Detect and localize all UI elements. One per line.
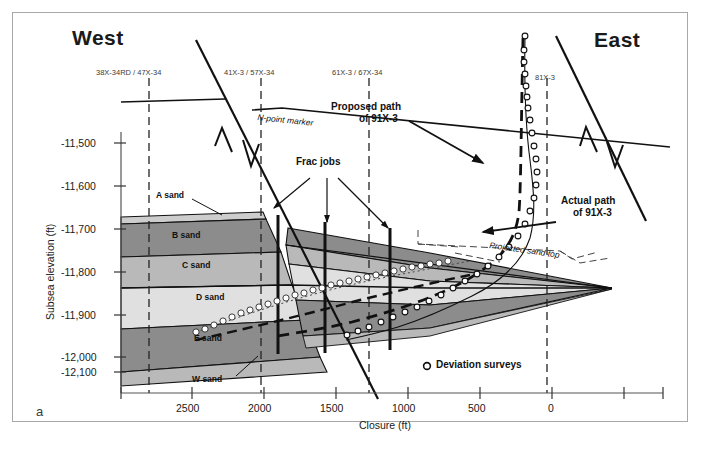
x-axis-title: Closure (ft): [359, 419, 411, 431]
sand-label-e: E sand: [194, 333, 222, 343]
y-tick-label-0: -11,500: [61, 137, 96, 149]
orientation-label-east: East: [594, 28, 640, 52]
well-label-81x-3: 81X-3: [535, 73, 555, 82]
sand-label-a: A sand: [156, 190, 184, 200]
orientation-label-west: West: [72, 26, 124, 50]
annotation-actual-path-line1: Actual path: [561, 195, 615, 207]
leader-frac-3: [338, 178, 388, 228]
well-label-61x-3: 61X-3 / 67X-34: [332, 68, 382, 77]
y-tick-label-5: -12,000: [61, 351, 97, 363]
legend-deviation-survey-icon: [424, 363, 431, 370]
sand-label-b: B sand: [172, 230, 200, 240]
leader-a-sand: [192, 199, 222, 215]
y-tick-label-1: -11,600: [61, 180, 96, 192]
sand-body-c-west: [121, 252, 292, 288]
leader-actual-path: [483, 222, 556, 232]
y-tick-label-4: -11,900: [61, 309, 96, 321]
sand-label-d: D sand: [196, 292, 224, 302]
fault-east: [556, 36, 646, 221]
x-tick-label-0: 2500: [176, 402, 199, 414]
annotation-frac-jobs: Frac jobs: [296, 156, 340, 168]
x-tick-label-4: 500: [468, 402, 486, 414]
y-tick-label-6b: -12,100: [61, 366, 97, 378]
y-tick-label-3: -11,800: [61, 266, 96, 278]
well-label-41x-3: 41X-3 / 57X-34: [224, 68, 274, 77]
y-axis-title: Subsea elevation (ft): [44, 224, 56, 320]
x-tick-label-2: 1500: [320, 402, 343, 414]
figure-page: West East 38X-34RD / 47X-34 41X-3 / 57X-…: [0, 0, 702, 458]
annotation-actual-path-line2: of 91X-3: [573, 207, 612, 219]
well-label-38x-34rd: 38X-34RD / 47X-34: [96, 68, 161, 77]
sand-label-c: C sand: [182, 260, 210, 270]
x-tick-label-1: 2000: [248, 402, 271, 414]
sand-body-b-west: [121, 219, 281, 257]
x-tick-label-5: 0: [548, 402, 554, 414]
annotation-proposed-path-line2: of 91X-3: [359, 113, 398, 125]
sand-label-w: W sand: [192, 374, 222, 384]
leader-frac-1: [274, 178, 310, 208]
panel-letter: a: [36, 404, 43, 419]
y-tick-label-2: -11,700: [61, 223, 96, 235]
x-tick-label-3: 1000: [392, 402, 415, 414]
annotation-proposed-path-line1: Proposed path: [331, 101, 401, 113]
legend-label-deviation-surveys: Deviation surveys: [436, 359, 522, 370]
